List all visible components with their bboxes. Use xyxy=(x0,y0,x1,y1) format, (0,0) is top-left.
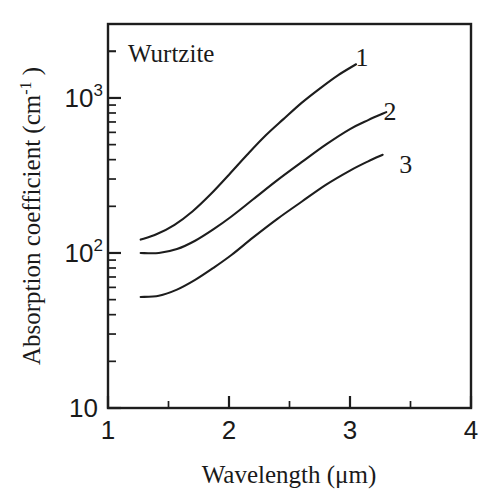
y-axis-title-superscript: -1 xyxy=(17,81,34,94)
y-axis-title: Absorption coefficient (cm-1 ) xyxy=(17,67,46,365)
chart-figure: 10102103 1234 123 Wurtzite Wavelength (μ… xyxy=(0,0,495,495)
series-curve-1 xyxy=(141,64,356,239)
y-tick-label: 10 xyxy=(69,393,98,423)
x-tick-label: 1 xyxy=(101,415,115,445)
y-axis-ticks xyxy=(108,24,121,408)
x-axis-title: Wavelength (μm) xyxy=(202,461,377,489)
x-axis-tick-labels: 1234 xyxy=(101,415,478,445)
y-axis-title-group: Absorption coefficient (cm-1 ) xyxy=(17,67,46,365)
series-label-1: 1 xyxy=(356,43,369,72)
series-label-2: 2 xyxy=(383,97,396,126)
series-curve-3 xyxy=(141,155,383,297)
data-series-group xyxy=(141,64,387,297)
series-label-3: 3 xyxy=(399,150,412,179)
x-tick-label: 4 xyxy=(464,415,478,445)
x-tick-label: 3 xyxy=(343,415,357,445)
y-axis-title-tail: ) xyxy=(18,67,46,82)
series-curve-2 xyxy=(141,112,387,253)
series-label-group: 123 xyxy=(356,43,413,179)
plot-frame xyxy=(108,24,471,408)
y-tick-label: 102 xyxy=(65,236,103,268)
chart-canvas: 10102103 1234 123 Wurtzite Wavelength (μ… xyxy=(0,0,495,495)
y-axis-tick-labels: 10102103 xyxy=(65,81,103,423)
y-tick-label: 103 xyxy=(65,81,103,113)
plot-annotation-wurtzite: Wurtzite xyxy=(128,40,214,67)
y-axis-title-main: Absorption coefficient (cm xyxy=(18,94,46,365)
x-axis-ticks xyxy=(108,396,471,408)
x-tick-label: 2 xyxy=(222,415,236,445)
